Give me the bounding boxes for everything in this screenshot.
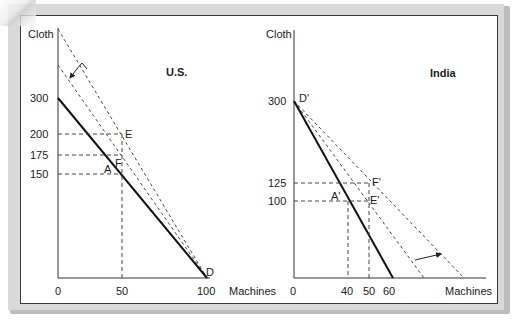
india-ppf-line <box>294 101 393 278</box>
us-point-d: D <box>206 266 214 278</box>
india-point-d: D' <box>299 92 309 104</box>
india-x-tick-50: 50 <box>363 285 375 297</box>
india-x-tick-40: 40 <box>341 285 353 297</box>
us-shift-arrow-icon <box>70 70 76 78</box>
india-y-axis-label: Cloth <box>266 28 292 40</box>
us-x-tick-50: 50 <box>116 285 128 297</box>
india-chart: Cloth India 300 125 100 0 40 50 60 Machi… <box>266 28 493 297</box>
india-shift-arrow-icon <box>415 254 441 260</box>
india-point-e: E' <box>370 194 379 206</box>
us-point-e: E <box>125 128 132 140</box>
india-x-tick-0: 0 <box>290 285 296 297</box>
us-x-tick-100: 100 <box>197 285 215 297</box>
us-x-axis-label: Machines <box>229 285 277 297</box>
us-chart: Cloth U.S. 300 200 175 150 0 50 100 Mach… <box>28 28 277 297</box>
us-arrow-stem <box>76 63 82 70</box>
india-x-axis-label: Machines <box>445 285 493 297</box>
us-y-tick-150: 150 <box>30 168 48 180</box>
us-y-tick-300: 300 <box>30 92 48 104</box>
india-point-a: A' <box>331 190 340 202</box>
india-trade-line-inner <box>294 101 424 278</box>
us-point-a: A <box>104 163 112 175</box>
us-ppf-line <box>58 98 207 278</box>
diagram-canvas: Cloth U.S. 300 200 175 150 0 50 100 Mach… <box>0 0 512 321</box>
us-arrow-tail <box>82 63 87 69</box>
india-title: India <box>430 67 457 79</box>
us-y-tick-175: 175 <box>30 149 48 161</box>
india-y-tick-300: 300 <box>268 95 286 107</box>
india-point-f: F' <box>372 176 381 188</box>
us-point-f: F <box>115 157 122 169</box>
us-trade-line-middle <box>58 65 207 278</box>
us-x-tick-0: 0 <box>55 285 61 297</box>
india-y-tick-125: 125 <box>268 177 286 189</box>
india-x-tick-60: 60 <box>383 285 395 297</box>
us-y-tick-200: 200 <box>30 128 48 140</box>
us-title: U.S. <box>166 66 187 78</box>
us-y-axis-label: Cloth <box>28 28 54 40</box>
india-y-tick-100: 100 <box>268 195 286 207</box>
